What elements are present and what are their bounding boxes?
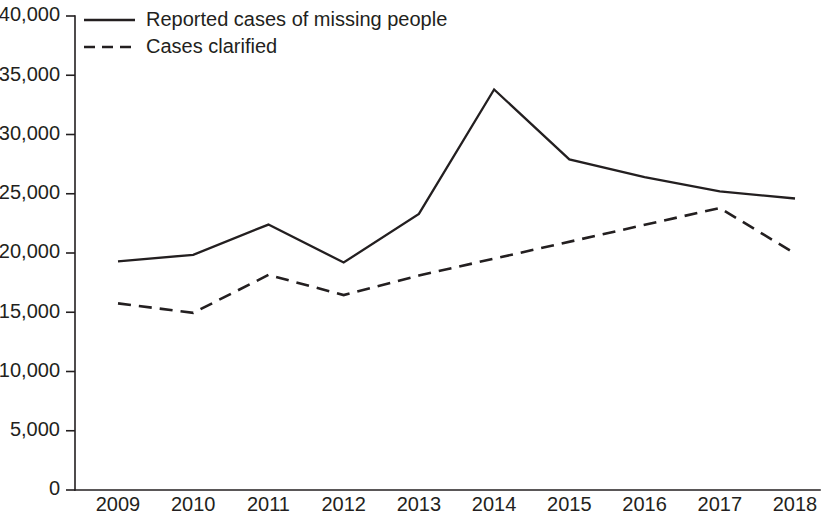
legend-label-cases-clarified: Cases clarified bbox=[146, 35, 277, 57]
y-tick-label: 10,000 bbox=[0, 359, 60, 381]
x-tick-label: 2018 bbox=[773, 493, 818, 515]
y-axis-group bbox=[66, 16, 75, 490]
legend: Reported cases of missing people Cases c… bbox=[84, 8, 447, 57]
series-cases-clarified-line bbox=[118, 208, 795, 313]
y-tick-marks bbox=[66, 16, 75, 490]
x-tick-label: 2015 bbox=[547, 493, 592, 515]
legend-label-reported-cases: Reported cases of missing people bbox=[146, 8, 447, 30]
y-tick-label: 30,000 bbox=[0, 122, 60, 144]
plot-area bbox=[118, 89, 795, 312]
series-reported-cases-line bbox=[118, 89, 795, 262]
x-tick-label: 2009 bbox=[96, 493, 141, 515]
x-tick-label: 2010 bbox=[171, 493, 216, 515]
x-tick-label: 2014 bbox=[472, 493, 517, 515]
x-tick-label: 2012 bbox=[321, 493, 366, 515]
line-chart: 05,00010,00015,00020,00025,00030,00035,0… bbox=[0, 0, 827, 521]
y-tick-labels: 05,00010,00015,00020,00025,00030,00035,0… bbox=[0, 3, 60, 499]
y-tick-label: 0 bbox=[49, 477, 60, 499]
y-tick-label: 5,000 bbox=[10, 418, 60, 440]
x-tick-labels: 2009201020112012201320142015201620172018 bbox=[96, 493, 818, 515]
y-tick-label: 15,000 bbox=[0, 300, 60, 322]
chart-canvas: 05,00010,00015,00020,00025,00030,00035,0… bbox=[0, 0, 827, 521]
x-tick-label: 2011 bbox=[247, 493, 290, 515]
y-tick-label: 35,000 bbox=[0, 63, 60, 85]
y-tick-label: 40,000 bbox=[0, 3, 60, 25]
y-tick-label: 20,000 bbox=[0, 240, 60, 262]
x-tick-label: 2013 bbox=[397, 493, 442, 515]
x-tick-label: 2016 bbox=[622, 493, 667, 515]
y-tick-label: 25,000 bbox=[0, 181, 60, 203]
x-tick-label: 2017 bbox=[698, 493, 743, 515]
